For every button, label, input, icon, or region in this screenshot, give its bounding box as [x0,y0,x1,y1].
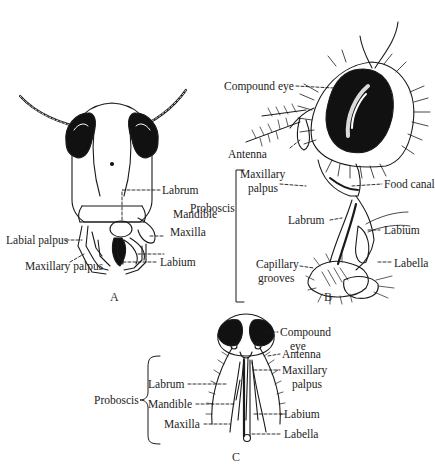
label-b-proboscis: Proboscis [190,202,235,214]
label-a-labium: Labium [160,256,196,268]
label-c-proboscis: Proboscis [94,394,139,406]
label-c-maxillary-palpus-line2: palpus [292,378,322,390]
compound-eye-left [66,113,96,158]
label-b-antenna: Antenna [228,148,267,160]
label-a-maxillary-palpus: Maxillary palpus [25,260,103,272]
compound-eye-c-left [218,320,243,346]
label-b-maxillary-palpus-line1: Maxillary [240,168,285,180]
label-c-labrum: Labrum [148,378,184,390]
panel-a-drawing [20,90,186,274]
label-c-maxillary-palpus-line1: Maxillary [282,364,327,376]
label-a-labrum: Labrum [162,184,198,196]
label-b-labella: Labella [394,257,428,269]
label-b-capillary-grooves-line1: Capillary [256,258,299,270]
label-a-labial-palpus: Labial palpus [6,234,68,246]
label-b-capillary-grooves-line2: grooves [258,272,294,284]
label-c-labium: Labium [284,408,320,420]
caption-a: A [110,290,119,305]
caption-b: B [324,290,332,305]
label-b-maxillary-palpus-line2: palpus [248,182,278,194]
label-a-maxilla: Maxilla [170,226,206,238]
compound-eye-b [326,69,393,153]
label-c-maxilla: Maxilla [164,418,200,430]
compound-eye-c-right [250,320,275,346]
label-b-labrum: Labrum [288,214,324,226]
label-b-compound-eye: Compound eye [224,80,294,92]
label-c-compound-eye-line1: Compound [280,326,331,338]
label-c-mandible: Mandible [148,398,192,410]
label-c-antenna: Antenna [282,348,321,360]
label-b-food-canal: Food canal [384,178,435,190]
label-c-labella: Labella [284,428,318,440]
label-b-labium: Labium [384,224,420,236]
caption-c: C [232,450,240,464]
